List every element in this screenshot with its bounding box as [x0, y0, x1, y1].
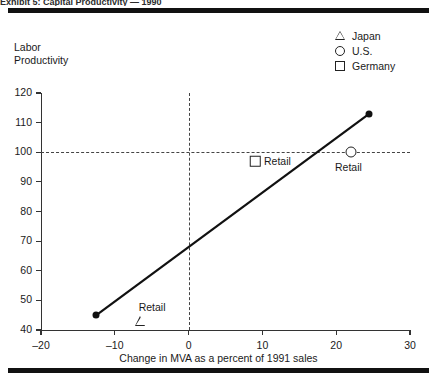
x-tick — [409, 330, 410, 335]
data-point-germany — [250, 156, 261, 167]
x-tick — [114, 330, 115, 335]
trend-line-svg — [41, 93, 410, 330]
x-axis-line — [41, 330, 410, 331]
trend-endpoint-right — [366, 110, 373, 117]
trend-endpoint-left — [93, 312, 100, 319]
data-point-label: Retail — [335, 161, 362, 173]
clipped-exhibit-header: Exhibit 5: Capital Productivity — 1990 — [0, 0, 437, 6]
legend-item-us: U.S. — [333, 43, 433, 58]
legend-label-us: U.S. — [352, 45, 372, 57]
triangle-icon — [333, 32, 347, 40]
x-tick-label: 0 — [169, 339, 209, 351]
circle-icon — [333, 46, 347, 56]
legend-label-germany: Germany — [352, 60, 395, 72]
plot-area: 405060708090100110120 –20–100102030 Reta… — [41, 93, 410, 330]
y-tick-label: 100 — [6, 145, 32, 157]
data-point-us — [345, 147, 356, 158]
x-tick-label: 20 — [316, 339, 356, 351]
y-tick-label: 40 — [6, 323, 32, 335]
x-axis-title: Change in MVA as a percent of 1991 sales — [0, 352, 437, 364]
y-tick-label: 120 — [6, 86, 32, 98]
x-tick-label: –10 — [95, 339, 135, 351]
legend-label-japan: Japan — [352, 30, 381, 42]
x-tick-label: –20 — [21, 339, 61, 351]
x-tick-label: 10 — [242, 339, 282, 351]
y-axis-title: LaborProductivity — [14, 41, 68, 67]
x-tick — [40, 330, 41, 335]
y-tick-label: 50 — [6, 293, 32, 305]
data-point-label: Retail — [264, 155, 291, 167]
data-point-label: Retail — [139, 301, 166, 313]
y-tick-label: 90 — [6, 175, 32, 187]
y-tick-label: 110 — [6, 116, 32, 128]
bottom-rule — [8, 368, 429, 373]
x-tick — [188, 330, 189, 335]
y-tick-label: 80 — [6, 205, 32, 217]
chart-legend: Japan U.S. Germany — [333, 28, 433, 73]
x-tick-label: 30 — [390, 339, 430, 351]
x-tick — [262, 330, 263, 335]
top-rule — [8, 8, 429, 13]
data-point-japan — [136, 317, 146, 325]
y-tick-label: 70 — [6, 234, 32, 246]
legend-item-germany: Germany — [333, 58, 433, 73]
legend-item-japan: Japan — [333, 28, 433, 43]
x-tick — [336, 330, 337, 335]
square-icon — [333, 61, 347, 71]
y-axis-title-text: LaborProductivity — [14, 41, 68, 66]
y-tick-label: 60 — [6, 264, 32, 276]
